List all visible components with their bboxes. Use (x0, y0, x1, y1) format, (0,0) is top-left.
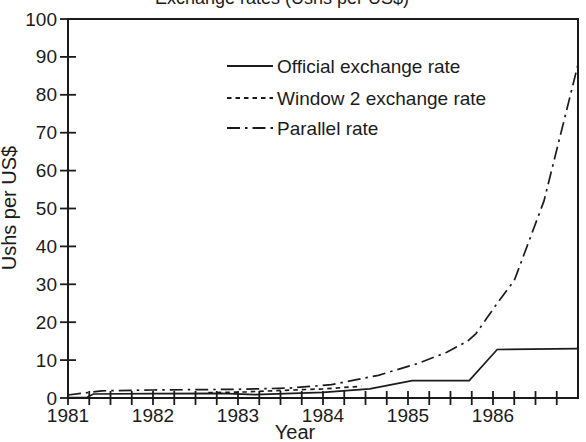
y-tick-label: 50 (36, 198, 57, 219)
y-tick-label: 100 (25, 9, 57, 30)
series-lines (68, 65, 578, 398)
x-tick-label: 1981 (47, 405, 89, 426)
y-tick-label: 20 (36, 312, 57, 333)
x-tick-label: 1986 (472, 405, 514, 426)
y-tick-label: 80 (36, 84, 57, 105)
legend: Official exchange rate Window 2 exchange… (227, 56, 486, 139)
y-axis-title: Ushs per US$ (0, 146, 20, 271)
legend-label-window2: Window 2 exchange rate (277, 88, 486, 109)
y-tick-label: 40 (36, 236, 57, 257)
y-tick-label: 60 (36, 160, 57, 181)
y-tick-label: 70 (36, 122, 57, 143)
scanned-chart-page: Exchange rates (Ushs per US$) 0102030405… (0, 0, 586, 442)
legend-label-parallel: Parallel rate (277, 118, 378, 139)
y-tick-label: 10 (36, 350, 57, 371)
x-tick-label: 1982 (132, 405, 174, 426)
cropped-title: Exchange rates (Ushs per US$) (155, 0, 409, 8)
legend-item-parallel: Parallel rate (227, 118, 378, 139)
series-dash-dot (68, 65, 578, 396)
x-axis-title: Year (275, 421, 316, 442)
y-tick-label: 90 (36, 46, 57, 67)
legend-item-official: Official exchange rate (227, 56, 460, 77)
legend-label-official: Official exchange rate (277, 56, 460, 77)
exchange-rate-chart: Exchange rates (Ushs per US$) 0102030405… (0, 0, 586, 442)
legend-item-window2: Window 2 exchange rate (227, 88, 486, 109)
x-tick-label: 1985 (387, 405, 429, 426)
y-tick-label: 30 (36, 274, 57, 295)
x-tick-label: 1983 (217, 405, 259, 426)
